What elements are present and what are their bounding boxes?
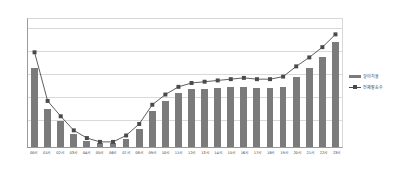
legend-label-line: 전체발송수 <box>363 85 383 91</box>
data-point-marker <box>320 45 324 49</box>
data-point-marker <box>307 55 311 59</box>
x-axis-tick-label: 03시 <box>67 150 80 156</box>
line-path <box>35 34 336 142</box>
data-point-marker <box>203 80 207 84</box>
x-axis-tick-label: 05시 <box>93 150 106 156</box>
x-axis-tick-label: 14시 <box>211 150 224 156</box>
data-point-marker <box>216 78 220 82</box>
data-point-marker <box>281 75 285 79</box>
x-axis-tick-label: 07시 <box>119 150 132 156</box>
x-axis-tick-label: 04시 <box>80 150 93 156</box>
data-point-marker <box>163 93 167 97</box>
data-point-marker <box>33 50 37 54</box>
x-axis-tick-label: 21시 <box>304 150 317 156</box>
data-point-marker <box>85 136 89 140</box>
data-point-marker <box>294 64 298 68</box>
data-point-marker <box>46 99 50 103</box>
data-point-marker <box>137 122 141 126</box>
data-point-marker <box>150 103 154 107</box>
legend-label-bar: 걸이지율 <box>363 74 379 80</box>
x-axis-tick-label: 16시 <box>238 150 251 156</box>
x-axis-tick-label: 15시 <box>225 150 238 156</box>
x-axis-tick-label: 12시 <box>185 150 198 156</box>
data-point-marker <box>268 77 272 81</box>
x-axis-tick-label: 06시 <box>106 150 119 156</box>
legend-item-line: 전체발송수 <box>349 83 399 92</box>
x-axis-tick-label: 09시 <box>146 150 159 156</box>
x-axis-tick-label: 18시 <box>264 150 277 156</box>
data-point-marker <box>59 114 63 118</box>
x-axis-tick-label: 00시 <box>27 150 40 156</box>
x-axis-tick-label: 10시 <box>159 150 172 156</box>
legend-item-bar: 걸이지율 <box>349 72 399 81</box>
x-axis-tick-label: 08시 <box>132 150 145 156</box>
data-point-marker <box>242 76 246 80</box>
data-point-marker <box>98 140 102 144</box>
x-axis-tick-label: 23시 <box>330 150 343 156</box>
x-axis-tick-label: 01시 <box>40 150 53 156</box>
data-point-marker <box>111 140 115 144</box>
chart-legend: 걸이지율 전체발송수 <box>349 72 399 94</box>
line-marker-key-icon <box>349 83 362 92</box>
plot-area <box>27 18 343 148</box>
x-axis-tick-label: 22시 <box>317 150 330 156</box>
x-axis-tick-label: 19시 <box>277 150 290 156</box>
data-point-marker <box>255 77 259 81</box>
line-series <box>28 19 342 147</box>
bar-key-icon <box>349 72 362 81</box>
x-axis-tick-label: 11시 <box>172 150 185 156</box>
data-point-marker <box>190 81 194 85</box>
x-axis-tick-label: 02시 <box>53 150 66 156</box>
x-axis-tick-label: 20시 <box>290 150 303 156</box>
x-axis-tick-label: 17시 <box>251 150 264 156</box>
x-axis-tick-label: 13시 <box>198 150 211 156</box>
data-point-marker <box>229 77 233 81</box>
data-point-marker <box>124 134 128 138</box>
chart-container: 00시01시02시03시04시05시06시07시08시09시10시11시12시1… <box>0 0 400 171</box>
data-point-marker <box>176 85 180 89</box>
data-point-marker <box>72 128 76 132</box>
data-point-marker <box>333 32 337 36</box>
x-axis-labels: 00시01시02시03시04시05시06시07시08시09시10시11시12시1… <box>27 150 343 156</box>
